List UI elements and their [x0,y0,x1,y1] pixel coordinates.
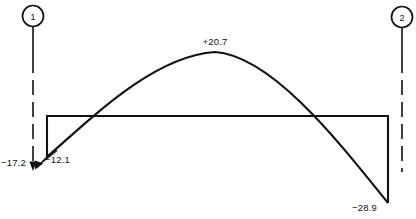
left-support-moment-label: −17.2 [1,157,26,168]
right-support-moment-label: −28.9 [352,202,377,213]
grid-bubble-1-label: 1 [30,12,35,22]
design-moment-block [47,116,388,203]
left-span-moment-label: −12.1 [45,154,70,165]
bending-moment-diagram: 1 2 +20.7 −17.2 −12.1 −28.9 [0,0,416,219]
grid-line-1: 1 [23,6,44,172]
grid-line-2: 2 [392,7,413,173]
moment-envelope-curve [47,52,388,203]
grid-bubble-2-label: 2 [399,13,404,23]
diagram-canvas: 1 2 +20.7 −17.2 −12.1 −28.9 [0,0,416,219]
midspan-positive-moment-label: +20.7 [202,36,227,47]
